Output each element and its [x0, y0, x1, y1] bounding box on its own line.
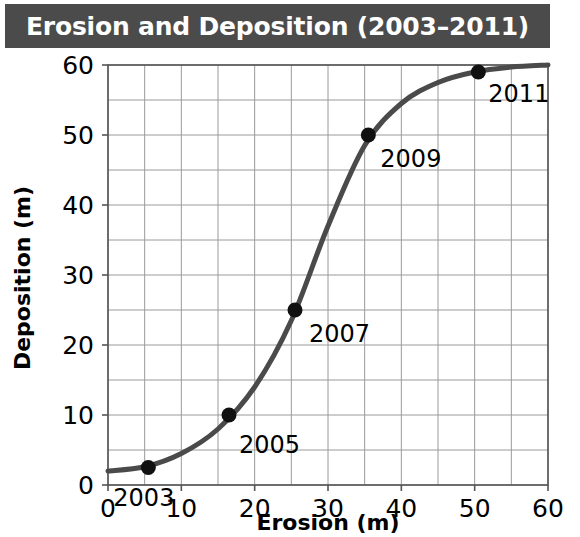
data-point-marker — [361, 128, 376, 143]
y-tick-label: 0 — [78, 471, 94, 500]
data-point-label: 2011 — [488, 80, 549, 108]
data-point-marker — [222, 408, 237, 423]
data-point-labels: 20032005200720092011 — [113, 80, 549, 512]
x-tick-label: 50 — [459, 494, 491, 523]
y-axis-title: Deposition (m) — [10, 186, 35, 370]
data-point-label: 2007 — [309, 320, 370, 348]
data-point-marker — [288, 303, 303, 318]
y-tick-label: 40 — [62, 191, 94, 220]
y-tick-label: 60 — [62, 51, 94, 80]
y-tick-label: 30 — [62, 261, 94, 290]
axis-ticks — [102, 65, 548, 491]
chart-plot-area: 20032005200720092011 0102030405060 01020… — [0, 0, 580, 537]
y-tick-label: 10 — [62, 401, 94, 430]
chart-figure: Erosion and Deposition (2003–2011) 20032… — [0, 0, 580, 537]
data-point-label: 2009 — [380, 145, 441, 173]
data-point-label: 2005 — [239, 431, 300, 459]
y-tick-label: 20 — [62, 331, 94, 360]
y-tick-label: 50 — [62, 121, 94, 150]
x-tick-label: 60 — [532, 494, 564, 523]
x-axis-title: Erosion (m) — [256, 510, 399, 535]
x-tick-label: 10 — [165, 494, 197, 523]
y-axis-tick-labels: 0102030405060 — [62, 51, 94, 500]
data-point-marker — [141, 460, 156, 475]
data-point-marker — [471, 65, 486, 80]
x-tick-label: 0 — [100, 494, 116, 523]
grid-minor — [108, 65, 548, 485]
